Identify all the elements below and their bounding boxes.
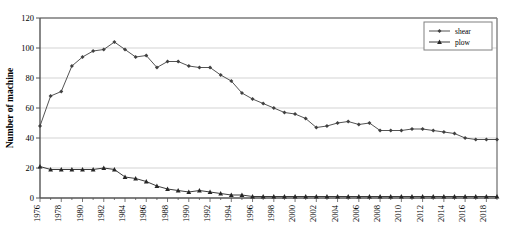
x-tick-label-2008: 2008 xyxy=(372,205,382,222)
x-tick-label-2006: 2006 xyxy=(351,205,361,222)
chart-legend: shearplow xyxy=(424,22,492,50)
x-tick-label-2000: 2000 xyxy=(287,205,297,222)
x-tick-label-1992: 1992 xyxy=(202,205,212,222)
x-tick-label-1984: 1984 xyxy=(117,204,127,222)
x-tick-label-1996: 1996 xyxy=(245,205,255,222)
legend-label-shear: shear xyxy=(455,27,471,36)
x-tick-label-2012: 2012 xyxy=(415,205,425,222)
x-tick-label-1986: 1986 xyxy=(138,205,148,222)
x-tick-label-1976: 1976 xyxy=(32,205,42,222)
line-chart: 020406080100120Number of machine19761978… xyxy=(0,0,518,238)
x-tick-label-2016: 2016 xyxy=(457,205,467,222)
x-tick-label-1982: 1982 xyxy=(96,205,106,222)
x-tick-label-2002: 2002 xyxy=(308,205,318,222)
x-tick-label-1994: 1994 xyxy=(223,204,233,222)
x-tick-label-2004: 2004 xyxy=(330,204,340,222)
y-tick-label-60: 60 xyxy=(26,103,35,113)
y-tick-label-80: 80 xyxy=(26,73,35,83)
x-tick-label-1978: 1978 xyxy=(53,205,63,222)
x-tick-label-2010: 2010 xyxy=(393,205,403,222)
x-tick-label-1998: 1998 xyxy=(266,205,276,222)
y-tick-label-100: 100 xyxy=(21,43,34,53)
y-tick-label-20: 20 xyxy=(26,163,35,173)
x-tick-label-1980: 1980 xyxy=(75,205,85,222)
legend-label-plow: plow xyxy=(455,38,471,47)
x-tick-label-1990: 1990 xyxy=(181,205,191,222)
x-tick-label-2018: 2018 xyxy=(478,205,488,222)
x-tick-label-2014: 2014 xyxy=(436,204,446,222)
y-axis-title: Number of machine xyxy=(5,68,15,149)
y-tick-label-120: 120 xyxy=(21,13,34,23)
y-tick-label-40: 40 xyxy=(26,133,35,143)
x-tick-label-1988: 1988 xyxy=(160,205,170,222)
chart-container: 020406080100120Number of machine19761978… xyxy=(0,0,518,238)
y-tick-label-0: 0 xyxy=(30,193,34,203)
